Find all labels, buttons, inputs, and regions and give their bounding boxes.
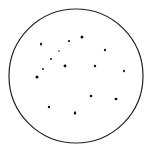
colony-dot [48,106,50,108]
colony-dot [90,95,93,98]
colony-dot [123,70,125,73]
colony-dot [94,65,96,67]
colony-dot [104,49,106,51]
colony-group [35,36,125,115]
colony-dot [58,50,60,52]
petri-dish-outline [9,9,143,143]
petri-dish-image [0,0,155,149]
colony-dot [40,42,42,45]
colony-dot [50,58,52,60]
colony-dot [64,65,67,68]
colony-dot [74,111,76,115]
colony-dot [68,40,70,42]
colony-dot [81,36,84,39]
colony-dot [115,98,118,101]
colony-dot [42,68,44,70]
colony-dot [35,75,38,78]
